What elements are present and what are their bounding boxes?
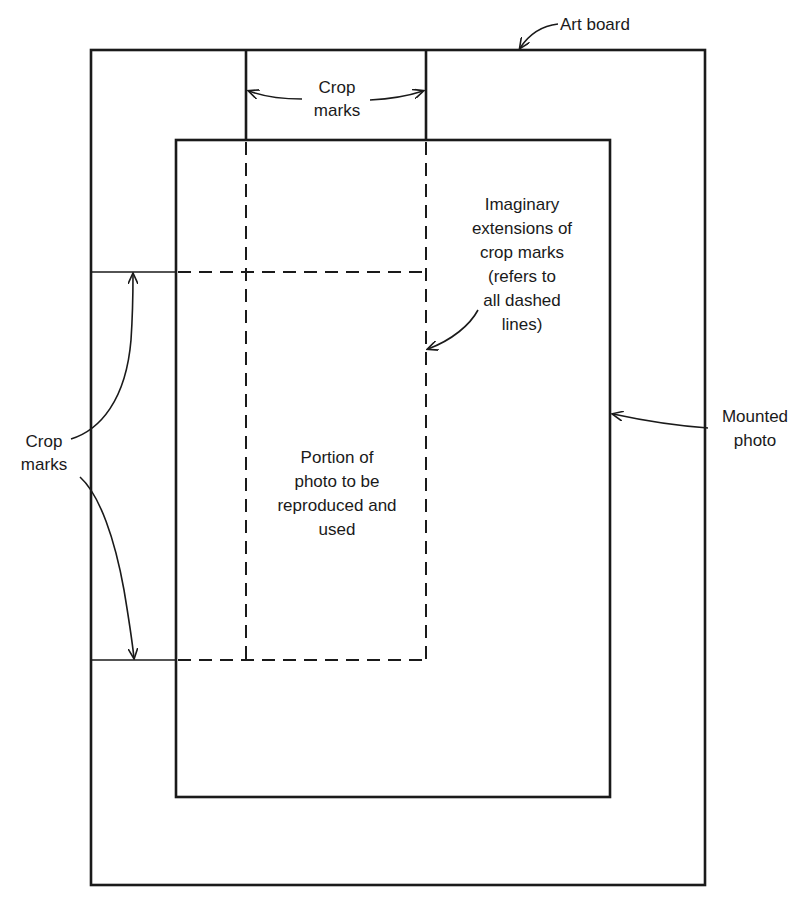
imaginary-extensions-label-line4: (refers to (488, 267, 556, 286)
top-crop-marks-label-line1: Crop (319, 78, 356, 97)
left-crop-marks-arrow-up-icon (71, 274, 133, 439)
mounted-photo-label-line2: photo (734, 431, 777, 450)
left-crop-marks-label-line1: Crop (26, 432, 63, 451)
imaginary-extensions-label-line3: crop marks (480, 243, 564, 262)
imaginary-extensions-arrow-icon (428, 310, 478, 349)
portion-used-label-line3: reproduced and (277, 496, 396, 515)
top-crop-marks-arrow-left-icon (249, 91, 302, 99)
crop-marks-diagram: Art board Crop marks Imaginary extension… (0, 0, 811, 900)
art-board-rect (91, 50, 705, 885)
portion-used-label-line1: Portion of (301, 448, 374, 467)
mounted-photo-label-line1: Mounted (722, 407, 788, 426)
imaginary-extensions-label-line1: Imaginary (485, 195, 560, 214)
art-board-label: Art board (560, 15, 630, 34)
mounted-photo-arrow-icon (613, 414, 708, 428)
imaginary-extensions-label-line5: all dashed (483, 291, 561, 310)
art-board-arrow-icon (520, 24, 558, 48)
portion-used-label-line2: photo to be (294, 472, 379, 491)
left-crop-marks-arrow-down-icon (80, 477, 134, 658)
left-crop-marks-label-line2: marks (21, 455, 67, 474)
portion-used-label-line4: used (319, 520, 356, 539)
top-crop-marks-arrow-right-icon (370, 91, 423, 100)
imaginary-extensions-label-line6: lines) (502, 315, 543, 334)
imaginary-extensions-label-line2: extensions of (472, 219, 572, 238)
top-crop-marks-label-line2: marks (314, 101, 360, 120)
mounted-photo-rect (176, 140, 610, 797)
